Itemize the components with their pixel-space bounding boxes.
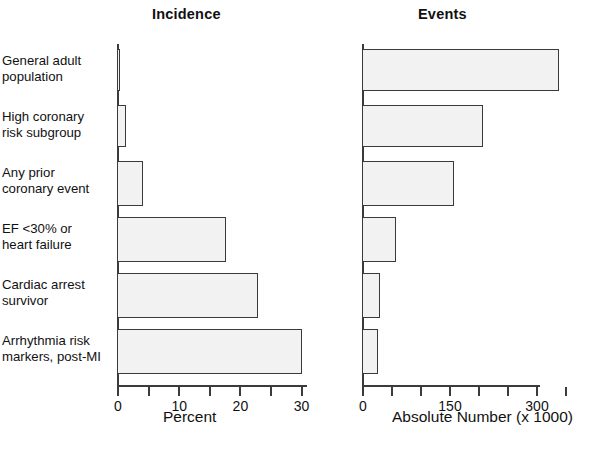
- bar: [117, 49, 120, 91]
- category-label-line: General adult: [2, 53, 114, 69]
- category-label-line: Any prior: [2, 165, 114, 181]
- x-tick: [449, 387, 451, 396]
- x-axis-caption-events: Absolute Number (x 1000): [392, 408, 573, 426]
- x-tick-label: 0: [114, 398, 122, 414]
- figure-canvas: Incidence Events General adult populatio…: [0, 0, 608, 459]
- category-label: Cardiac arrest survivor: [2, 277, 114, 308]
- x-tick-label: 0: [359, 398, 367, 414]
- x-tick: [420, 387, 422, 396]
- category-label-line: population: [2, 69, 114, 85]
- plot-incidence: 0102030: [117, 44, 312, 385]
- x-tick: [362, 387, 364, 396]
- x-tick-label: 30: [294, 398, 310, 414]
- panel-title-incidence: Incidence: [152, 6, 221, 22]
- category-label: General adult population: [2, 53, 114, 84]
- bar: [117, 161, 143, 206]
- x-tick: [301, 387, 303, 396]
- category-label-line: markers, post-MI: [2, 349, 114, 365]
- bar: [362, 329, 378, 374]
- bar: [117, 329, 302, 374]
- category-label-line: EF <30% or: [2, 221, 114, 237]
- bar: [362, 161, 454, 206]
- x-tick: [536, 387, 538, 396]
- x-tick: [178, 387, 180, 396]
- x-tick: [391, 387, 393, 396]
- category-label: Arrhythmia risk markers, post-MI: [2, 333, 114, 364]
- category-label-line: Arrhythmia risk: [2, 333, 114, 349]
- plot-events: 0150300: [362, 44, 562, 385]
- bar: [117, 217, 226, 262]
- x-tick: [270, 387, 272, 396]
- x-tick: [239, 387, 241, 396]
- category-label-line: survivor: [2, 293, 114, 309]
- x-tick: [209, 387, 211, 396]
- category-label: High coronary risk subgroup: [2, 109, 114, 140]
- x-tick: [148, 387, 150, 396]
- x-axis-line-events: [362, 385, 540, 387]
- category-label-column: General adult population High coronary r…: [2, 44, 114, 384]
- category-label: Any prior coronary event: [2, 165, 114, 196]
- bar: [362, 273, 380, 318]
- x-tick: [117, 387, 119, 396]
- category-label-line: risk subgroup: [2, 125, 114, 141]
- bar: [362, 105, 483, 147]
- category-label-line: High coronary: [2, 109, 114, 125]
- x-tick: [507, 387, 509, 396]
- category-label-line: Cardiac arrest: [2, 277, 114, 293]
- x-tick: [478, 387, 480, 396]
- x-axis-line-incidence: [117, 385, 307, 387]
- category-label-line: coronary event: [2, 181, 114, 197]
- category-label-line: heart failure: [2, 237, 114, 253]
- bar: [117, 105, 126, 147]
- category-label: EF <30% or heart failure: [2, 221, 114, 252]
- x-tick: [565, 387, 567, 396]
- bar: [117, 273, 258, 318]
- x-axis-caption-incidence: Percent: [163, 408, 216, 426]
- bar: [362, 217, 396, 262]
- bar: [362, 49, 559, 91]
- panel-title-events: Events: [418, 6, 467, 22]
- x-tick-label: 20: [233, 398, 249, 414]
